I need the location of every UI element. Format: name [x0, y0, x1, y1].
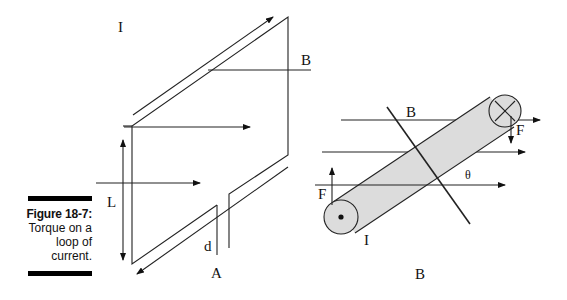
current-out-dot-icon [338, 214, 343, 219]
current-arrow-top [133, 17, 273, 115]
cylinder-body [333, 97, 514, 233]
label-b-force-bottom: F [318, 186, 326, 202]
label-panel-a: A [211, 265, 222, 281]
label-a-length: L [107, 194, 116, 210]
label-a-current: I [118, 19, 123, 35]
diagram-b [315, 95, 540, 234]
diagram-a [96, 17, 311, 274]
loop-wire-main [132, 17, 288, 264]
label-panel-b: B [415, 266, 425, 282]
label-b-field: B [406, 104, 416, 120]
torque-diagram: I B L d A B F F θ I B [0, 0, 567, 300]
label-b-angle: θ [465, 168, 471, 182]
label-a-width: d [204, 238, 212, 254]
label-a-field: B [301, 52, 311, 68]
label-b-current: I [364, 232, 369, 248]
label-b-force-top: F [516, 122, 524, 138]
